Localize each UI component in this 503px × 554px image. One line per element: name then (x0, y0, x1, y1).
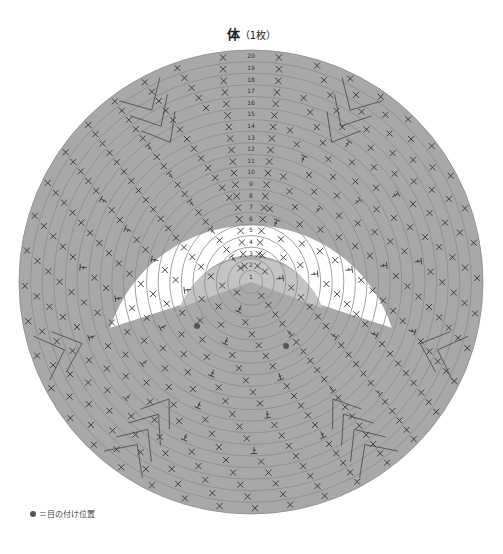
eye-position-marker-icon (283, 343, 289, 349)
round-number-label: 16 (247, 99, 255, 106)
round-number-label: 11 (247, 157, 255, 164)
round-number-label: 17 (247, 87, 255, 94)
round-number-label: 14 (247, 122, 255, 129)
round-number-label: 6 (249, 215, 253, 222)
round-number-label: 9 (249, 180, 253, 187)
round-number-label: 13 (247, 134, 255, 141)
round-number-label: 12 (247, 145, 255, 152)
crochet-chart: 1234567891011121314151617181920 (0, 0, 503, 554)
round-number-label: 19 (247, 64, 255, 71)
legend-text: ＝目の付け位置 (39, 508, 95, 519)
round-number-label: 3 (249, 250, 253, 257)
round-number-label: 10 (247, 168, 255, 175)
eye-marker-icon (30, 511, 36, 517)
eye-position-marker-icon (194, 323, 200, 329)
round-number-label: 8 (249, 192, 253, 199)
legend: ＝目の付け位置 (30, 508, 95, 519)
round-number-label: 5 (249, 226, 253, 233)
round-number-label: 18 (247, 76, 255, 83)
round-number-label: 1 (249, 273, 253, 280)
round-number-label: 4 (249, 238, 253, 245)
round-number-label: 20 (247, 52, 255, 59)
round-number-label: 2 (249, 261, 253, 268)
round-number-label: 7 (249, 203, 253, 210)
round-number-label: 15 (247, 110, 255, 117)
